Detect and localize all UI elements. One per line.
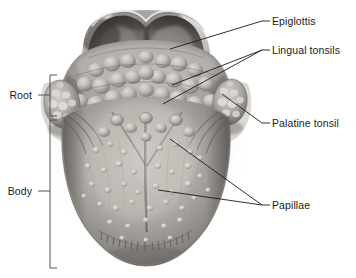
bracket-label-root: Root xyxy=(0,89,32,101)
tongue-anatomy-figure: Epiglottis Lingual tonsils Palatine tons… xyxy=(0,0,356,278)
annotation-labels: Epiglottis Lingual tonsils Palatine tons… xyxy=(0,0,356,278)
callout-label-epiglottis: Epiglottis xyxy=(272,15,316,27)
bracket-label-body: Body xyxy=(0,185,32,197)
callout-label-papillae: Papillae xyxy=(272,199,310,211)
callout-label-lingual-tonsils: Lingual tonsils xyxy=(272,44,340,56)
callout-label-palatine-tonsil: Palatine tonsil xyxy=(272,117,339,129)
